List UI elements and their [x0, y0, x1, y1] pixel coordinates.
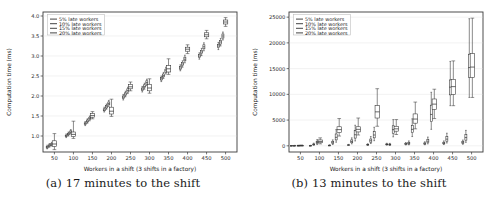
- y-tick-label: 3.5: [31, 33, 39, 39]
- x-tick-label: 200: [107, 155, 117, 161]
- y-axis-label: Computation time (ms): [252, 48, 259, 116]
- y-tick-label: 20000: [269, 40, 286, 46]
- y-tick-label: 15000: [269, 66, 286, 72]
- x-tick-label: 250: [126, 155, 136, 161]
- x-tick-label: 450: [448, 155, 458, 161]
- box: [147, 84, 151, 90]
- legend-label: 20% late workers: [305, 30, 348, 36]
- panel-b: 0500010000150002000025000501001502002503…: [246, 0, 492, 210]
- box: [413, 114, 417, 123]
- x-tick-label: 50: [51, 155, 58, 161]
- y-tick-label: 5000: [272, 117, 285, 123]
- x-axis-label: Workers in a shift (3 shifts in a factor…: [84, 166, 197, 173]
- x-tick-label: 400: [183, 155, 193, 161]
- y-tick-label: 3.0: [31, 53, 39, 59]
- x-tick-label: 350: [410, 155, 420, 161]
- boxplot-chart-b: 0500010000150002000025000501001502002503…: [246, 0, 492, 178]
- panel-a: 1.01.52.02.53.03.54.05010015020025030035…: [0, 0, 246, 210]
- panel-caption-b: (b) 13 minutes to the shift: [292, 177, 447, 190]
- box: [335, 134, 337, 140]
- x-axis-label: Workers in a shift (3 shifts in a factor…: [330, 166, 443, 173]
- y-tick-label: 2.5: [31, 73, 39, 79]
- boxplot-group: [291, 146, 293, 147]
- boxplot-group: [310, 145, 312, 146]
- y-tick-label: 25000: [269, 14, 286, 20]
- plot-area-a: 1.01.52.02.53.03.54.05010015020025030035…: [0, 0, 246, 178]
- panel-caption-a: (a) 17 minutes to the shift: [46, 177, 200, 190]
- boxplot-group: [329, 145, 331, 146]
- y-tick-label: 2.0: [31, 93, 39, 99]
- x-tick-label: 50: [297, 155, 304, 161]
- x-tick-label: 450: [202, 155, 212, 161]
- x-tick-label: 100: [314, 155, 324, 161]
- y-tick-label: 1.5: [31, 113, 39, 119]
- x-tick-label: 350: [164, 155, 174, 161]
- x-tick-label: 400: [429, 155, 439, 161]
- boxplot-group: [294, 145, 296, 146]
- boxplot-group: [299, 145, 303, 146]
- x-tick-label: 100: [68, 155, 78, 161]
- boxplot-group: [348, 144, 350, 145]
- box: [109, 107, 113, 114]
- x-tick-label: 150: [87, 155, 97, 161]
- y-tick-label: 10000: [269, 91, 286, 97]
- x-tick-label: 500: [467, 155, 477, 161]
- y-axis-label: Computation time (ms): [6, 48, 13, 116]
- y-tick-label: 1.0: [31, 133, 39, 139]
- x-tick-label: 300: [145, 155, 155, 161]
- x-tick-label: 150: [333, 155, 343, 161]
- x-tick-label: 200: [353, 155, 363, 161]
- x-tick-label: 300: [391, 155, 401, 161]
- y-tick-label: 4.0: [31, 13, 39, 19]
- x-tick-label: 500: [221, 155, 231, 161]
- box: [470, 54, 474, 78]
- figure-two-panel-boxplots: 1.01.52.02.53.03.54.05010015020025030035…: [0, 0, 493, 210]
- x-tick-label: 250: [372, 155, 382, 161]
- boxplot-chart-a: 1.01.52.02.53.03.54.05010015020025030035…: [0, 0, 246, 178]
- boxplot-group: [367, 144, 369, 146]
- legend-label: 20% late workers: [59, 30, 102, 36]
- box: [52, 141, 56, 147]
- y-tick-label: 0: [282, 143, 285, 149]
- plot-area-b: 0500010000150002000025000501001502002503…: [246, 0, 492, 178]
